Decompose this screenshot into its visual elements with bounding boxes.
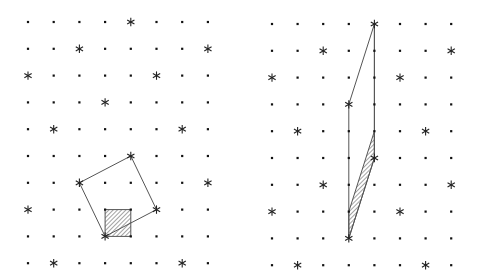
grid-dot	[130, 48, 132, 50]
grid-dot	[130, 182, 132, 184]
grid-dot	[181, 235, 183, 237]
grid-dot	[130, 209, 132, 211]
star-marker-icon	[371, 20, 378, 28]
star-marker-icon	[153, 71, 160, 79]
star-marker-icon	[448, 181, 455, 189]
grid-dot	[155, 155, 157, 157]
grid-dot	[399, 50, 401, 52]
grid-dot	[450, 237, 452, 239]
grid-dot	[271, 130, 273, 132]
grid-dot	[425, 184, 427, 186]
grid-dot	[450, 157, 452, 159]
grid-dot	[181, 209, 183, 211]
grid-dot	[425, 103, 427, 105]
star-marker-icon	[76, 45, 83, 53]
grid-dot	[78, 21, 80, 23]
grid-dot	[450, 130, 452, 132]
star-marker-icon	[50, 125, 57, 133]
grid-dot	[322, 237, 324, 239]
grid-dot	[399, 103, 401, 105]
grid-dot	[104, 75, 106, 77]
grid-dot	[373, 50, 375, 52]
grid-dot	[297, 237, 299, 239]
grid-dot	[207, 21, 209, 23]
star-marker-icon	[50, 259, 57, 267]
grid-dot	[348, 157, 350, 159]
grid-dot	[78, 75, 80, 77]
grid-dot	[181, 48, 183, 50]
grid-dot	[104, 209, 106, 211]
grid-dot	[53, 182, 55, 184]
grid-dot	[373, 130, 375, 132]
grid-dot	[322, 157, 324, 159]
grid-dot	[322, 77, 324, 79]
grid-dot	[271, 23, 273, 25]
grid-dot	[348, 184, 350, 186]
star-marker-icon	[179, 259, 186, 267]
grid-dot	[348, 130, 350, 132]
grid-dot	[450, 23, 452, 25]
grid-dot	[399, 184, 401, 186]
grid-dot	[425, 23, 427, 25]
grid-dot	[130, 128, 132, 130]
grid-dot	[297, 77, 299, 79]
grid-dot	[78, 209, 80, 211]
grid-dot	[27, 155, 29, 157]
grid-dot	[78, 101, 80, 103]
grid-dot	[322, 211, 324, 213]
grid-dot	[155, 182, 157, 184]
grid-dot	[450, 264, 452, 266]
grid-dot	[207, 235, 209, 237]
grid-dot	[53, 155, 55, 157]
grid-dot	[271, 157, 273, 159]
grid-dot	[53, 209, 55, 211]
grid-dot	[53, 21, 55, 23]
grid-dot	[297, 184, 299, 186]
star-marker-icon	[294, 127, 301, 135]
star-marker-icon	[422, 261, 429, 269]
star-marker-icon	[153, 205, 160, 213]
grid-dot	[78, 235, 80, 237]
grid-dot	[155, 101, 157, 103]
grid-dot	[322, 264, 324, 266]
grid-dot	[130, 101, 132, 103]
grid-dot	[373, 211, 375, 213]
grid-dot	[207, 101, 209, 103]
star-marker-icon	[127, 152, 134, 160]
grid-dot	[207, 128, 209, 130]
star-marker-icon	[294, 261, 301, 269]
star-marker-icon	[179, 125, 186, 133]
grid-dot	[53, 235, 55, 237]
star-marker-icon	[268, 73, 275, 81]
grid-dot	[271, 264, 273, 266]
star-marker-icon	[268, 207, 275, 215]
star-marker-icon	[345, 234, 352, 242]
grid-dot	[425, 157, 427, 159]
grid-dot	[322, 23, 324, 25]
grid-dot	[297, 23, 299, 25]
grid-dot	[373, 77, 375, 79]
hatched-parallelogram	[349, 131, 375, 238]
grid-dot	[399, 264, 401, 266]
star-marker-icon	[76, 179, 83, 187]
star-marker-icon	[448, 47, 455, 55]
grid-dot	[348, 23, 350, 25]
star-marker-icon	[127, 18, 134, 26]
star-marker-icon	[24, 71, 31, 79]
star-marker-icon	[101, 98, 108, 106]
grid-dot	[207, 209, 209, 211]
grid-dot	[373, 103, 375, 105]
star-marker-icon	[422, 127, 429, 135]
grid-dot	[450, 77, 452, 79]
grid-dot	[27, 182, 29, 184]
grid-dot	[104, 128, 106, 130]
grid-dot	[181, 155, 183, 157]
grid-dot	[399, 157, 401, 159]
grid-dot	[155, 21, 157, 23]
grid-dot	[181, 75, 183, 77]
grid-dot	[155, 235, 157, 237]
grid-dot	[207, 75, 209, 77]
grid-dot	[271, 184, 273, 186]
grid-dot	[348, 77, 350, 79]
grid-dot	[425, 211, 427, 213]
